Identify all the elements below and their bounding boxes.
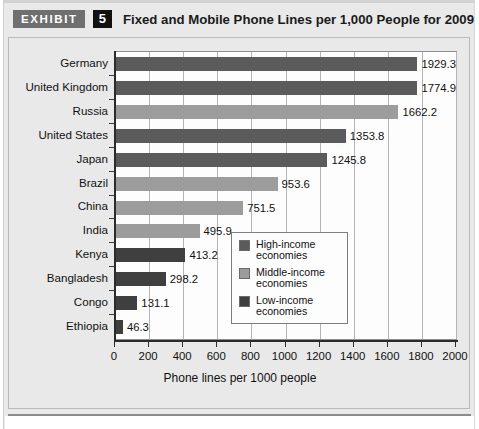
exhibit-page: EXHIBIT 5 Fixed and Mobile Phone Lines p… [0,0,479,429]
bar-japan [115,153,327,167]
legend-swatch-high-income [239,240,250,251]
bar-congo [115,296,137,310]
bar-row: 1353.8 [115,124,456,148]
x-axis-tick-1600 [387,341,388,347]
bar-value-label: 495.9 [204,225,232,237]
page-left-border [0,0,4,429]
legend-label: Middle-incomeeconomies [256,267,325,290]
page-right-border [474,0,479,429]
y-axis-tick [109,147,114,148]
legend-item-middle-income: Middle-incomeeconomies [239,267,341,290]
bar-row: 751.5 [115,196,456,220]
x-axis-tick-1200 [319,341,320,347]
x-axis-line [114,340,458,342]
gridline-2000 [456,52,457,339]
y-axis-tick [109,242,114,243]
y-axis-tick [109,75,114,76]
bar-value-label: 1245.8 [331,154,366,166]
x-axis-tick-0 [114,341,115,347]
bar-india [115,224,200,238]
bar-value-label: 1774.9 [421,82,456,94]
y-axis-label-congo: Congo [8,295,108,308]
legend-swatch-low-income [239,296,250,307]
x-axis-tick-1400 [353,341,354,347]
bar-value-label: 131.1 [141,297,169,309]
y-axis-label-brazil: Brazil [8,176,108,189]
y-axis-label-china: China [8,199,108,212]
y-axis-label-united-kingdom: United Kingdom [8,80,108,93]
bar-row: 1245.8 [115,148,456,172]
x-axis-tick-1800 [421,341,422,347]
bar-bangladesh [115,272,166,286]
y-axis-tick [109,266,114,267]
bar-ethiopia [115,320,123,334]
y-axis-label-kenya: Kenya [8,247,108,260]
y-axis-label-india: India [8,223,108,236]
legend-item-high-income: High-incomeeconomies [239,239,341,262]
x-axis-tick-600 [216,341,217,347]
bar-value-label: 953.6 [282,178,310,190]
x-axis-tick-400 [182,341,183,347]
bar-row: 953.6 [115,172,456,196]
bar-russia [115,105,398,119]
bar-united-kingdom [115,81,417,95]
x-axis-tick-800 [250,341,251,347]
bar-value-label: 1929.3 [421,58,456,70]
exhibit-title: Fixed and Mobile Phone Lines per 1,000 P… [123,12,474,27]
bar-value-label: 46.3 [127,321,149,333]
y-axis-label-russia: Russia [8,104,108,117]
page-top-border [0,0,479,3]
x-axis-tick-2000 [455,341,456,347]
bar-brazil [115,177,278,191]
y-axis-line [114,51,116,341]
bar-kenya [115,248,185,262]
y-axis-label-bangladesh: Bangladesh [8,271,108,284]
y-axis-label-japan: Japan [8,152,108,165]
legend-item-low-income: Low-incomeeconomies [239,295,341,318]
legend-swatch-middle-income [239,268,250,279]
exhibit-header: EXHIBIT 5 Fixed and Mobile Phone Lines p… [5,4,474,34]
footer-area [5,416,474,429]
y-axis-label-germany: Germany [8,56,108,69]
y-axis-label-ethiopia: Ethiopia [8,319,108,332]
y-axis-tick [109,171,114,172]
x-axis-tick-1000 [285,341,286,347]
y-axis-tick [109,290,114,291]
bar-row: 1929.3 [115,52,456,76]
bar-row: 1662.2 [115,100,456,124]
y-axis-tick [109,123,114,124]
chart-container: 1929.31774.91662.21353.81245.8953.6751.5… [8,37,470,409]
bar-value-label: 1353.8 [350,130,385,142]
x-axis-tick-200 [148,341,149,347]
y-axis-tick [109,195,114,196]
legend-label: High-incomeeconomies [256,239,315,262]
bar-value-label: 751.5 [247,202,275,214]
legend-label: Low-incomeeconomies [256,295,313,318]
chart-legend: High-incomeeconomiesMiddle-incomeeconomi… [231,232,348,324]
x-axis-tick-label-2000: 2000 [435,350,475,362]
exhibit-number-badge: 5 [93,10,112,28]
y-axis-label-united-states: United States [8,128,108,141]
bar-united-states [115,129,346,143]
bar-value-label: 1662.2 [402,106,437,118]
x-axis-title: Phone lines per 1000 people [9,371,471,385]
exhibit-tag: EXHIBIT [13,10,85,28]
bar-china [115,201,243,215]
y-axis-tick [109,218,114,219]
bar-row: 1774.9 [115,76,456,100]
y-axis-tick [109,99,114,100]
bar-value-label: 298.2 [170,273,198,285]
y-axis-tick [109,314,114,315]
bar-germany [115,57,417,71]
bar-value-label: 413.2 [189,249,217,261]
